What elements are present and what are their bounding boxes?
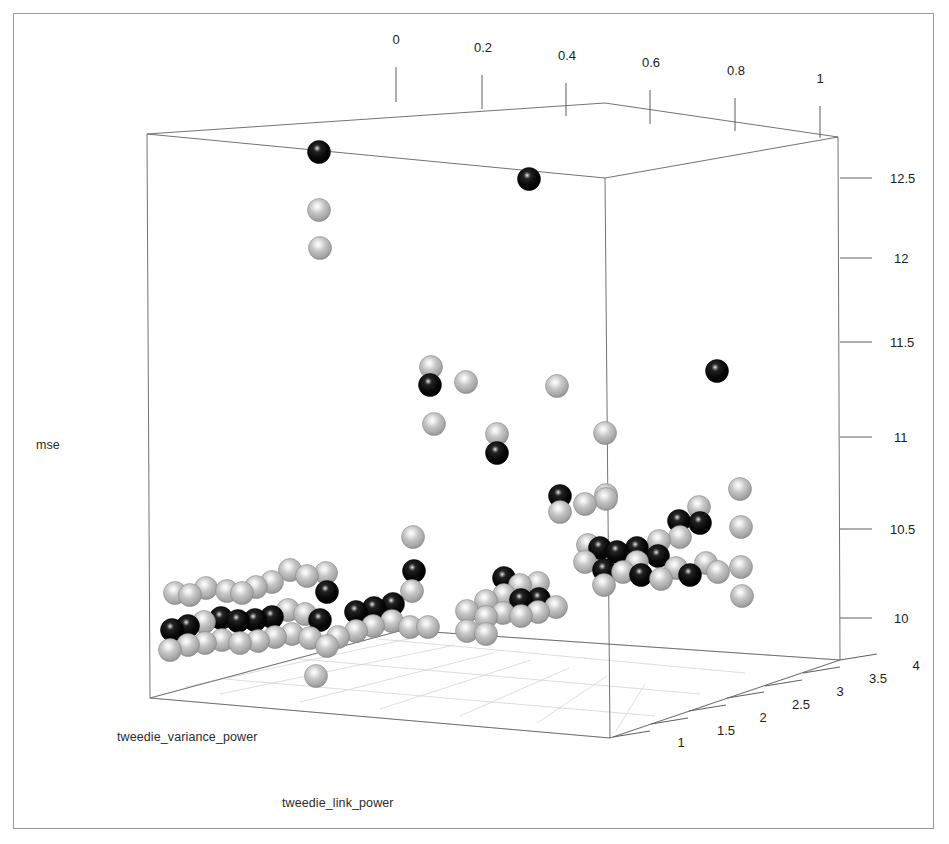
data-point-marker xyxy=(510,605,533,628)
data-point-marker xyxy=(594,422,617,445)
data-point-marker xyxy=(305,665,328,688)
figure-canvas: 0 0.2 0.4 0.6 0.8 1 12.5 12 11.5 11 10.5… xyxy=(0,0,949,844)
y-tick-label: 1.5 xyxy=(717,723,735,738)
y-axis-title: tweedie_link_power xyxy=(282,796,394,810)
data-point-marker xyxy=(417,616,440,639)
data-point-marker xyxy=(229,632,252,655)
data-point-marker xyxy=(308,199,331,222)
data-point-marker xyxy=(730,516,753,539)
x-tick-label: 0.2 xyxy=(474,40,492,55)
data-point-marker xyxy=(316,581,339,604)
data-point-marker xyxy=(669,526,692,549)
data-point-marker xyxy=(402,526,425,549)
data-point-marker xyxy=(593,574,616,597)
y-tick-label: 2.5 xyxy=(792,697,810,712)
z-tick-label: 12 xyxy=(894,251,908,266)
x-tick-label: 1 xyxy=(816,71,823,86)
y-tick-label: 3 xyxy=(836,684,843,699)
data-point-marker xyxy=(731,585,754,608)
data-point-marker xyxy=(227,610,250,633)
scatter3d-plot xyxy=(0,0,949,844)
data-point-marker xyxy=(403,560,426,583)
data-point-marker xyxy=(630,564,653,587)
x-tick-label: 0.4 xyxy=(558,48,576,63)
data-point-marker xyxy=(706,360,729,383)
x-tick-label: 0.6 xyxy=(642,55,660,70)
z-tick-label: 11.5 xyxy=(890,335,914,350)
data-point-marker xyxy=(475,623,498,646)
data-point-marker xyxy=(518,168,541,191)
x-axis-title: tweedie_variance_power xyxy=(117,730,257,744)
data-point-marker xyxy=(679,564,702,587)
data-point-marker xyxy=(574,493,597,516)
data-point-marker xyxy=(316,635,339,658)
data-point-marker xyxy=(309,237,332,260)
data-point-marker xyxy=(159,639,182,662)
data-point-marker xyxy=(419,374,442,397)
y-tick-label: 4 xyxy=(912,658,919,673)
data-point-marker xyxy=(455,371,478,394)
data-point-marker xyxy=(729,478,752,501)
z-tick-label: 10 xyxy=(894,611,908,626)
x-tick-label: 0.8 xyxy=(727,63,745,78)
y-tick-label: 3.5 xyxy=(869,671,887,686)
data-point-marker xyxy=(423,413,446,436)
data-point-marker xyxy=(296,565,319,588)
data-point-marker xyxy=(486,442,509,465)
data-point-marker xyxy=(730,556,753,579)
z-tick-label: 11 xyxy=(894,430,908,445)
z-tick-label: 12.5 xyxy=(890,171,915,186)
data-point-marker xyxy=(549,501,572,524)
data-point-marker xyxy=(231,582,254,605)
data-point-marker xyxy=(546,375,569,398)
data-point-marker xyxy=(689,512,712,535)
data-point-marker xyxy=(707,561,730,584)
data-point-marker xyxy=(179,584,202,607)
y-tick-label: 2 xyxy=(759,710,766,725)
data-point-marker xyxy=(595,488,618,511)
z-axis-ticks xyxy=(840,178,872,618)
y-tick-label: 1 xyxy=(677,735,684,750)
data-point-group xyxy=(159,141,754,688)
x-tick-label: 0 xyxy=(392,32,399,47)
z-axis-title: mse xyxy=(36,438,60,452)
data-point-marker xyxy=(308,141,331,164)
data-point-marker xyxy=(650,568,673,591)
z-tick-label: 10.5 xyxy=(890,522,915,537)
data-point-marker xyxy=(401,580,424,603)
